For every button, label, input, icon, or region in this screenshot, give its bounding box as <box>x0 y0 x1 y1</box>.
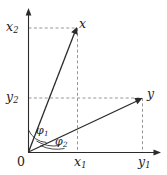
label-phi2-base: φ <box>55 135 63 148</box>
label-y1-subscript: 1 <box>145 160 150 170</box>
label-y1-axis: y1 <box>138 156 151 170</box>
label-vector-x-base: x <box>79 16 86 31</box>
label-vector-y: y <box>147 88 154 101</box>
label-origin: 0 <box>17 156 25 169</box>
label-x1-base: x <box>74 154 81 169</box>
label-vector-y-base: y <box>147 86 154 101</box>
label-angle-phi1: φ1 <box>36 125 49 137</box>
label-phi1-base: φ <box>36 124 44 137</box>
label-x1-subscript: 1 <box>81 160 86 170</box>
label-y1-base: y <box>138 154 145 169</box>
label-x1-axis: x1 <box>74 156 87 170</box>
horizontal-axis-arrow-icon <box>154 150 162 156</box>
label-y2-axis: y2 <box>6 91 19 105</box>
vertical-axis-arrow-icon <box>26 8 32 16</box>
label-x2-base: x <box>6 19 13 34</box>
label-y2-base: y <box>6 89 13 104</box>
label-phi2-subscript: 2 <box>63 140 68 149</box>
vector-diagram-figure: x2 y2 x y x1 y1 0 φ1 φ2 <box>0 0 167 175</box>
label-x2-axis: x2 <box>6 21 19 35</box>
label-angle-phi2: φ2 <box>55 136 68 148</box>
label-x2-subscript: 2 <box>13 25 18 35</box>
label-phi1-subscript: 1 <box>44 129 49 138</box>
label-y2-subscript: 2 <box>13 95 18 105</box>
label-vector-x: x <box>79 18 86 31</box>
